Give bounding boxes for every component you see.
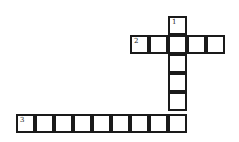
crossword-cell[interactable] xyxy=(35,114,54,133)
crossword-cell[interactable] xyxy=(130,114,149,133)
clue-number: 3 xyxy=(20,116,24,124)
clue-number: 1 xyxy=(172,18,176,26)
crossword-cell[interactable] xyxy=(54,114,73,133)
crossword-cell[interactable] xyxy=(149,114,168,133)
crossword-cell[interactable]: 2 xyxy=(130,35,149,54)
crossword-cell[interactable] xyxy=(168,35,187,54)
crossword-cell[interactable] xyxy=(149,35,168,54)
crossword-cell[interactable] xyxy=(187,35,206,54)
crossword-cell[interactable] xyxy=(168,114,187,133)
crossword-cell[interactable] xyxy=(111,114,130,133)
crossword-cell[interactable] xyxy=(206,35,225,54)
crossword-cell[interactable] xyxy=(73,114,92,133)
crossword-cell[interactable] xyxy=(168,92,187,111)
clue-number: 2 xyxy=(134,37,138,45)
crossword-cell[interactable] xyxy=(92,114,111,133)
crossword-cell[interactable]: 1 xyxy=(168,16,187,35)
crossword-grid: 123 xyxy=(0,0,239,142)
crossword-cell[interactable]: 3 xyxy=(16,114,35,133)
crossword-cell[interactable] xyxy=(168,73,187,92)
crossword-cell[interactable] xyxy=(168,54,187,73)
